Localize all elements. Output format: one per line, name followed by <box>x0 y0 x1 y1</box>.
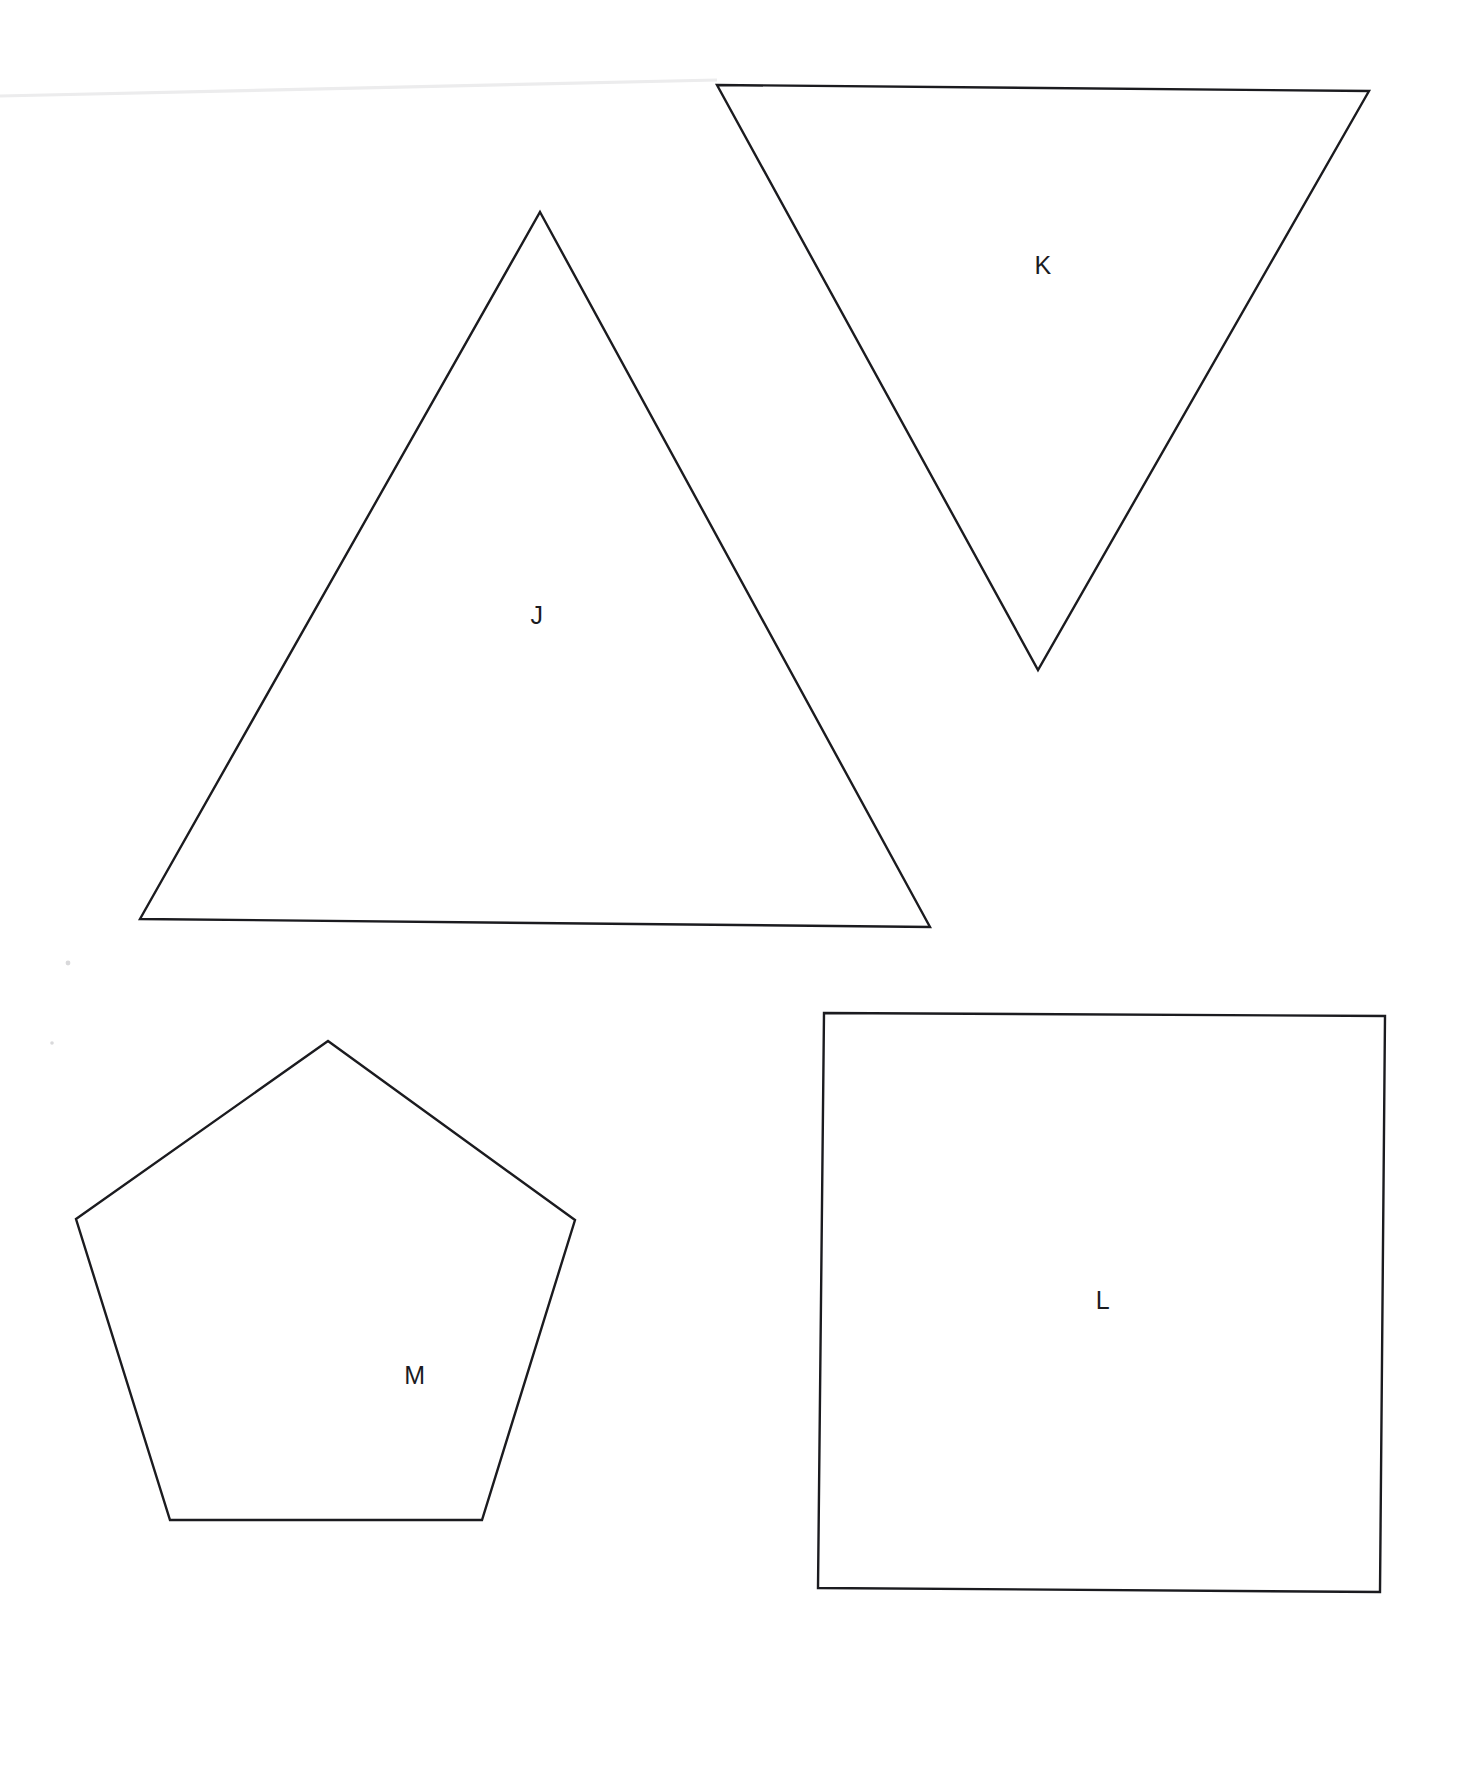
shape-label-l: L <box>1096 1288 1110 1313</box>
shape-label-k: K <box>1034 253 1051 278</box>
scan-speck <box>66 961 71 966</box>
shape-label-m: M <box>404 1363 425 1388</box>
shapes-canvas <box>0 0 1461 1773</box>
shape-label-j: J <box>531 603 544 628</box>
scan-speck <box>50 1041 54 1045</box>
worksheet-page: J K L M <box>0 0 1461 1773</box>
